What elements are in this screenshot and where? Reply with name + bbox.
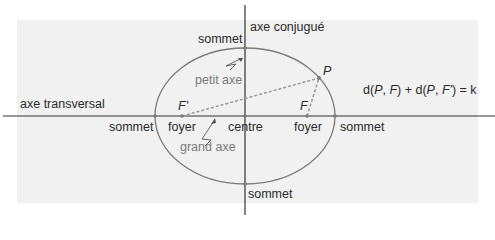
vertex-left-dot	[153, 114, 157, 118]
point-p-label: P	[323, 65, 331, 78]
focus-right-label: foyer	[294, 121, 322, 134]
center-dot	[243, 114, 247, 118]
focus-left-label: foyer	[168, 121, 196, 134]
vertex-top-label: sommet	[198, 33, 242, 46]
vertex-right-dot	[333, 114, 337, 118]
vertex-bottom-label: sommet	[248, 188, 292, 201]
transverse-axis-label: axe transversal	[20, 98, 105, 111]
major-axis-label: grand axe	[180, 141, 236, 154]
vertex-top-dot	[243, 46, 247, 50]
focus-right-symbol: F	[300, 100, 308, 113]
focus-right-dot	[305, 114, 309, 118]
focus-left-symbol: F'	[178, 100, 188, 113]
vertex-bottom-dot	[243, 182, 247, 186]
vertex-left-label: sommet	[109, 121, 153, 134]
dashed-line-pf	[307, 78, 319, 116]
minor-axis-label: petit axe	[195, 74, 242, 87]
conjugate-axis-label: axe conjugué	[250, 21, 324, 34]
point-p-dot	[317, 76, 321, 80]
vertex-right-label: sommet	[340, 121, 384, 134]
formula-label: d(P, F) + d(P, F') = k	[363, 84, 477, 97]
focus-left-dot	[180, 114, 184, 118]
center-label: centre	[228, 121, 263, 134]
